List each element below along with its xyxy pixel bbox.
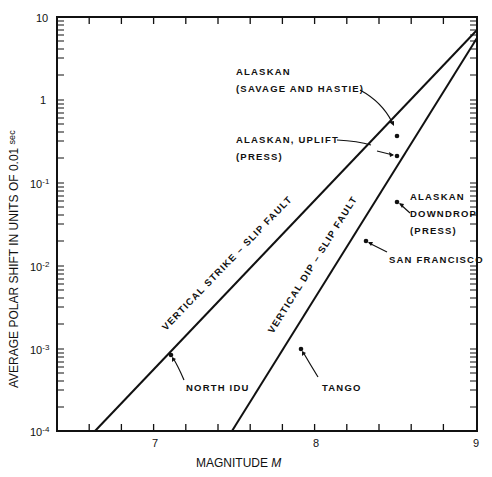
x-tick-8: 8	[313, 437, 319, 449]
point-alaskan-savage-hastie	[395, 134, 400, 139]
label-downdrop-press: (PRESS)	[410, 225, 457, 236]
label-uplift-press: (PRESS)	[236, 151, 283, 162]
y-axis-title: AVERAGE POLAR SHIFT IN UNITS OF 0.01 sec	[7, 130, 21, 388]
label-san-francisco: SAN FRANCISCO	[389, 254, 484, 265]
label-tango: TANGO	[322, 382, 362, 393]
label-north-idu: NORTH IDU	[186, 382, 250, 393]
x-axis-title: MAGNITUDE M	[196, 456, 281, 470]
point-alaskan-uplift	[395, 154, 400, 159]
label-alaskan-3: ALASKAN	[410, 191, 465, 202]
y-tick-10: 10	[36, 12, 48, 24]
point-alaskan-downdrop	[395, 200, 400, 205]
arrow-heads	[172, 121, 404, 362]
y-tick-1e-3: 10-3	[30, 343, 50, 356]
label-savage-hastie: (SAVAGE AND HASTIE)	[236, 83, 364, 94]
strike-slip-fault-label: VERTICAL STRIKE – SLIP FAULT	[160, 194, 295, 333]
chart: 10 1 10-1 10-2 10-3 10-4 7 8 9 MAGNITUDE…	[0, 0, 492, 477]
point-san-francisco	[364, 239, 369, 244]
x-tick-9: 9	[473, 437, 479, 449]
point-north-idu	[169, 353, 174, 358]
y-tick-1e-2: 10-2	[30, 260, 50, 273]
label-alaskan-uplift: ALASKAN, UPLIFT	[236, 134, 339, 145]
label-downdrop: DOWNDROP	[410, 208, 477, 219]
x-tick-7: 7	[152, 437, 158, 449]
y-tick-1e-4: 10-4	[30, 425, 50, 438]
y-tick-1: 1	[40, 94, 46, 106]
point-tango	[299, 347, 304, 352]
y-tick-1e-1: 10-1	[30, 177, 50, 190]
label-alaskan-1: ALASKAN	[236, 66, 291, 77]
data-points	[169, 134, 400, 358]
